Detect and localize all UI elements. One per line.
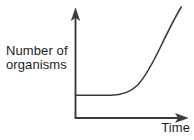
y-axis-label: Number of organisms <box>6 44 74 71</box>
y-axis-label-line-1: Number of <box>6 44 74 58</box>
x-axis-label: Time <box>161 121 190 135</box>
y-axis-label-line-2: organisms <box>6 58 74 72</box>
exponential-growth-curve <box>76 7 182 95</box>
exponential-growth-figure: Number of organisms Time <box>0 0 194 140</box>
